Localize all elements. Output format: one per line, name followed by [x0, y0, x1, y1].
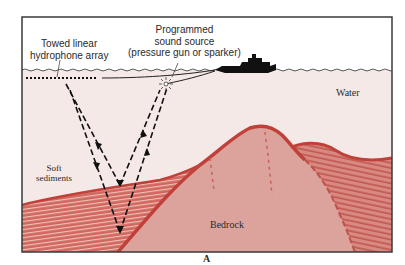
seismic-profile-diagram: Towed linear hydrophone array Programmed…	[0, 0, 405, 265]
water-label: Water	[336, 87, 360, 99]
sound-source-label: Programmed sound source (pressure gun or…	[128, 24, 241, 59]
hydrophone-label: Towed linear hydrophone array	[30, 38, 108, 61]
hydrophone-label-line1: Towed linear	[30, 38, 108, 50]
hydrophone-label-line2: hydrophone array	[30, 50, 108, 62]
sound-source-label-line1: Programmed	[128, 24, 241, 36]
bedrock-label: Bedrock	[210, 219, 244, 231]
sound-source-burst	[159, 77, 173, 91]
soft-sediments-label: Soft sediments	[36, 163, 72, 184]
soft-sediments-label-line2: sediments	[36, 173, 72, 183]
sound-source-label-line3: (pressure gun or sparker)	[128, 47, 241, 59]
panel-label: A	[203, 253, 210, 265]
soft-sediments-label-line1: Soft	[36, 163, 72, 173]
sound-source-label-line2: sound source	[128, 36, 241, 48]
